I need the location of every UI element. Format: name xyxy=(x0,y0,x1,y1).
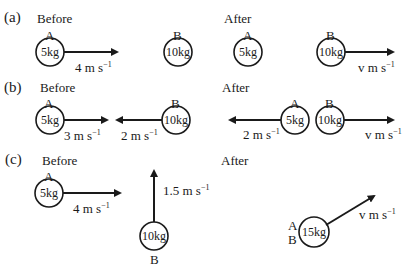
heading-before-b: Before xyxy=(40,81,75,94)
heading-before-a: Before xyxy=(37,12,72,25)
mass-a-b-before: 5kg xyxy=(35,114,65,126)
mass-a-c-before: 5kg xyxy=(34,187,64,199)
mass-a-b-after: 5kg xyxy=(280,114,310,126)
name-a-c-before: A xyxy=(44,170,53,183)
part-label-c: (c) xyxy=(5,152,22,167)
part-label-b: (b) xyxy=(4,80,22,95)
mass-b-b-before: 10kg xyxy=(161,114,191,126)
velocity-b-b-before: 2 m s−1 xyxy=(121,129,158,142)
mass-b-a-after: 10kg xyxy=(316,46,346,58)
mass-a-a-after: 5kg xyxy=(233,46,263,58)
velocity-a-b-after: 2 m s−1 xyxy=(243,128,280,141)
velocity-a-a-before: 4 m s−1 xyxy=(75,61,112,74)
velocity-combined-c-after: v m s−1 xyxy=(359,208,396,221)
velocity-a-c-before: 4 m s−1 xyxy=(73,202,110,215)
name-b-c-after: B xyxy=(288,233,297,246)
velocity-b-c-before: 1.5 m s−1 xyxy=(163,184,209,197)
name-b-c-before: B xyxy=(150,253,159,266)
mass-b-b-after: 10kg xyxy=(315,114,345,126)
name-a-a-after: A xyxy=(243,29,252,42)
name-a-a-before: A xyxy=(45,29,54,42)
mass-b-c-before: 10kg xyxy=(139,230,169,242)
name-a-b-after: A xyxy=(290,97,299,110)
heading-before-c: Before xyxy=(42,154,77,167)
heading-after-a: After xyxy=(224,12,251,25)
heading-after-c: After xyxy=(221,154,248,167)
name-b-b-after: B xyxy=(325,97,334,110)
name-a-c-after: A xyxy=(288,219,297,232)
mass-combined-c-after: 15kg xyxy=(299,226,329,238)
mass-a-a-before: 5kg xyxy=(35,46,65,58)
name-a-b-before: A xyxy=(44,97,53,110)
mass-b-a-before: 10kg xyxy=(163,46,193,58)
heading-after-b: After xyxy=(222,81,249,94)
velocity-a-b-before: 3 m s−1 xyxy=(64,129,101,142)
velocity-b-a-after: v m s−1 xyxy=(358,61,395,74)
part-label-a: (a) xyxy=(4,10,21,25)
name-b-a-before: B xyxy=(173,29,182,42)
velocity-b-b-after: v m s−1 xyxy=(365,128,402,141)
name-b-a-after: B xyxy=(326,29,335,42)
name-b-b-before: B xyxy=(171,97,180,110)
